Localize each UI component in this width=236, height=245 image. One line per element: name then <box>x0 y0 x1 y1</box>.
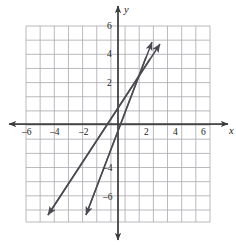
graph-canvas <box>0 0 236 245</box>
x-tick-label--4: –4 <box>50 128 60 138</box>
y-tick-label-6: 6 <box>107 22 112 32</box>
y-tick-label-4: 4 <box>107 50 112 60</box>
axes <box>9 6 228 240</box>
x-tick-label-6: 6 <box>201 128 206 138</box>
coordinate-plane-figure: –6 –4 –2 2 4 6 6 4 2 –4 –6 x y <box>0 0 236 245</box>
line-2-up <box>86 42 152 215</box>
y-axis-label: y <box>124 5 129 16</box>
x-tick-label--6: –6 <box>22 128 32 138</box>
x-axis-label: x <box>229 126 234 137</box>
x-tick-label-2: 2 <box>144 128 149 138</box>
x-tick-label--2: –2 <box>79 128 89 138</box>
x-tick-label-4: 4 <box>173 128 178 138</box>
y-tick-label-2: 2 <box>107 79 112 89</box>
y-tick-label--6: –6 <box>103 193 113 203</box>
y-tick-label--4: –4 <box>103 164 113 174</box>
